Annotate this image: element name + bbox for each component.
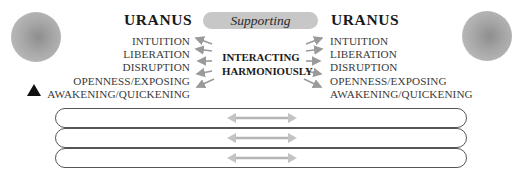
left-keyword: OPENNESS/EXPOSING (47, 75, 190, 88)
right-keyword: AWAKENING/QUICKENING (330, 88, 473, 101)
left-keyword: INTUITION (47, 35, 190, 48)
triangle-marker-icon (27, 84, 41, 96)
right-keyword: LIBERATION (330, 48, 473, 61)
relationship-label: Supporting (230, 13, 290, 29)
double-arrow-icon (227, 132, 297, 144)
left-keyword: AWAKENING/QUICKENING (47, 88, 190, 101)
double-arrow-icon (227, 152, 297, 164)
left-keyword: LIBERATION (47, 48, 190, 61)
aspect-bar-2 (55, 128, 467, 148)
center-label: INTERACTING HARMONIOUSLY (222, 51, 300, 78)
right-keyword: OPENNESS/EXPOSING (330, 75, 473, 88)
aspect-bar-3 (55, 148, 467, 168)
aspect-bar-1 (55, 108, 467, 128)
center-label-line2: HARMONIOUSLY (222, 65, 300, 79)
right-keyword-list: INTUITION LIBERATION DISRUPTION OPENNESS… (330, 35, 473, 101)
right-planet-title: URANUS (331, 11, 399, 29)
right-keyword: DISRUPTION (330, 61, 473, 74)
center-label-line1: INTERACTING (222, 51, 300, 65)
double-arrow-icon (227, 112, 297, 124)
left-keyword: DISRUPTION (47, 61, 190, 74)
left-keyword-list: INTUITION LIBERATION DISRUPTION OPENNESS… (47, 35, 190, 101)
right-keyword: INTUITION (330, 35, 473, 48)
relationship-pill: Supporting (203, 12, 318, 29)
left-planet-title: URANUS (124, 11, 192, 29)
